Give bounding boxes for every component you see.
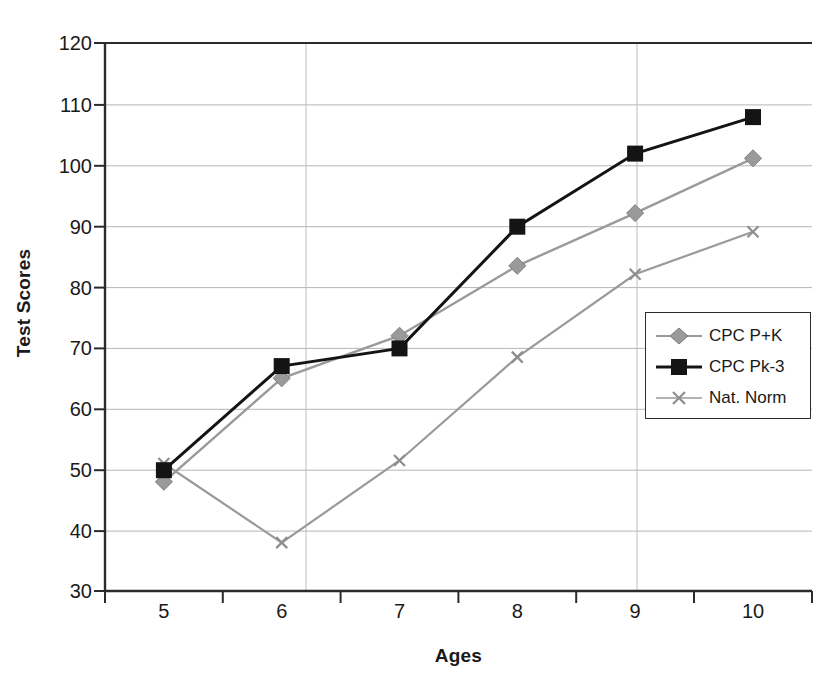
y-axis-title: Test Scores <box>13 203 35 403</box>
legend-item-nat-norm: Nat. Norm <box>646 382 810 413</box>
line-chart: 120 110 100 90 80 70 60 50 40 30 5 6 7 8… <box>0 0 840 692</box>
diamond-marker-icon <box>655 326 703 346</box>
x-marker-icon <box>655 388 703 408</box>
legend-item-cpc-p-k: CPC P+K <box>646 320 810 351</box>
x-tick-label: 7 <box>360 600 440 622</box>
square-marker-icon <box>655 357 703 377</box>
x-tick-label: 8 <box>477 600 557 622</box>
x-tick-label: 9 <box>595 600 675 622</box>
legend-label: CPC Pk-3 <box>709 357 785 376</box>
legend-label: Nat. Norm <box>709 388 786 407</box>
x-tick-label: 6 <box>242 600 322 622</box>
chart-legend: CPC P+K CPC Pk-3 Nat. Norm <box>645 312 811 419</box>
legend-label: CPC P+K <box>709 326 782 345</box>
x-tick-label: 5 <box>124 600 204 622</box>
x-tick-label: 10 <box>713 600 793 622</box>
legend-item-cpc-pk-3: CPC Pk-3 <box>646 351 810 382</box>
x-axis-title: Ages <box>105 645 812 667</box>
